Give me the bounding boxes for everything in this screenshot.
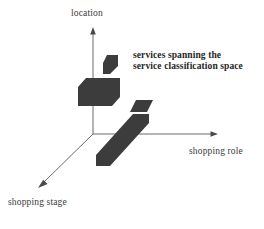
block-upper-small-body — [103, 55, 118, 74]
arrowhead-right-icon — [211, 131, 219, 137]
axis-label-shopping-stage: shopping stage — [8, 197, 67, 208]
annotation-line-2: service classification space — [133, 61, 243, 72]
axis-label-shopping-role: shopping role — [189, 146, 243, 157]
arrowhead-downleft-icon — [38, 180, 48, 188]
axis-shopping-stage — [38, 134, 93, 188]
block-upper-small — [103, 55, 118, 74]
block-flat-right — [130, 100, 153, 112]
block-large-left — [78, 78, 120, 106]
arrowhead-up-icon — [90, 27, 96, 35]
annotation-line-1: services spanning the — [133, 50, 243, 61]
axis-shopping-stage-line — [44, 134, 93, 182]
axis-label-location: location — [71, 8, 103, 19]
block-flat-right-body — [130, 100, 153, 112]
block-diagonal-long — [96, 114, 149, 166]
figure-root: location shopping role shopping stage se… — [0, 0, 264, 229]
axis-shopping-role — [93, 131, 218, 137]
block-diagonal-long-body — [96, 114, 149, 166]
annotation-services-spanning: services spanning the service classifica… — [133, 50, 243, 72]
diagram-canvas — [0, 0, 264, 229]
block-large-left-body — [78, 78, 120, 106]
